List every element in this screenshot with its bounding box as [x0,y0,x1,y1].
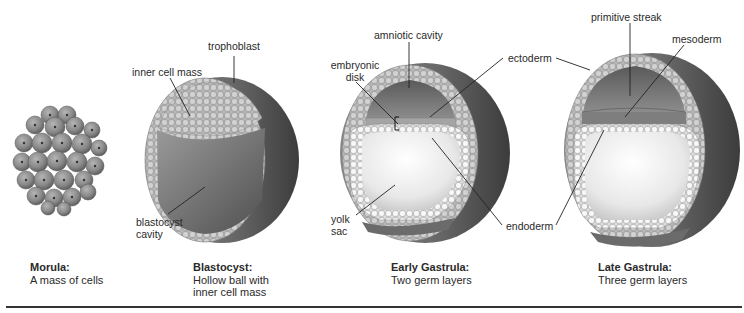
morula-illustration [13,106,107,216]
label-yolk-sac-line1: yolk [331,213,350,225]
label-amniotic-cavity: amniotic cavity [374,29,443,41]
label-yolk-sac-line2: sac [331,225,347,237]
label-trophoblast: trophoblast [208,40,260,52]
early-gastrula-illustration [340,63,510,243]
label-embryonic-disk-line1: embryonic [328,59,382,71]
label-endoderm: endoderm [506,220,553,232]
caption-blastocyst-title: Blastocyst: [193,261,269,274]
caption-morula-desc: A mass of cells [30,274,103,287]
caption-early-gastrula-title: Early Gastrula: [391,261,472,274]
label-embryonic-disk-line2: disk [328,71,382,83]
label-inner-cell-mass: inner cell mass [132,66,202,78]
label-blastocyst-cavity-line1: blastocyst [136,216,183,228]
caption-blastocyst-desc-line2: inner cell mass [193,286,269,299]
caption-blastocyst-desc-line1: Hollow ball with [193,274,269,287]
label-ectoderm: ectoderm [508,52,552,64]
caption-blastocyst: Blastocyst: Hollow ball with inner cell … [193,261,269,299]
bottom-divider [6,306,742,308]
embryo-development-diagram: trophoblast inner cell mass blastocyst c… [0,0,744,313]
caption-early-gastrula-desc: Two germ layers [391,274,472,287]
caption-late-gastrula: Late Gastrula: Three germ layers [598,261,687,286]
late-gastrula-illustration [564,53,740,247]
caption-late-gastrula-desc: Three germ layers [598,274,687,287]
caption-morula-title: Morula: [30,261,103,274]
label-primitive-streak: primitive streak [591,11,662,23]
label-mesoderm: mesoderm [672,33,722,45]
caption-late-gastrula-title: Late Gastrula: [598,261,687,274]
label-blastocyst-cavity-line2: cavity [136,228,163,240]
caption-early-gastrula: Early Gastrula: Two germ layers [391,261,472,286]
caption-morula: Morula: A mass of cells [30,261,103,286]
